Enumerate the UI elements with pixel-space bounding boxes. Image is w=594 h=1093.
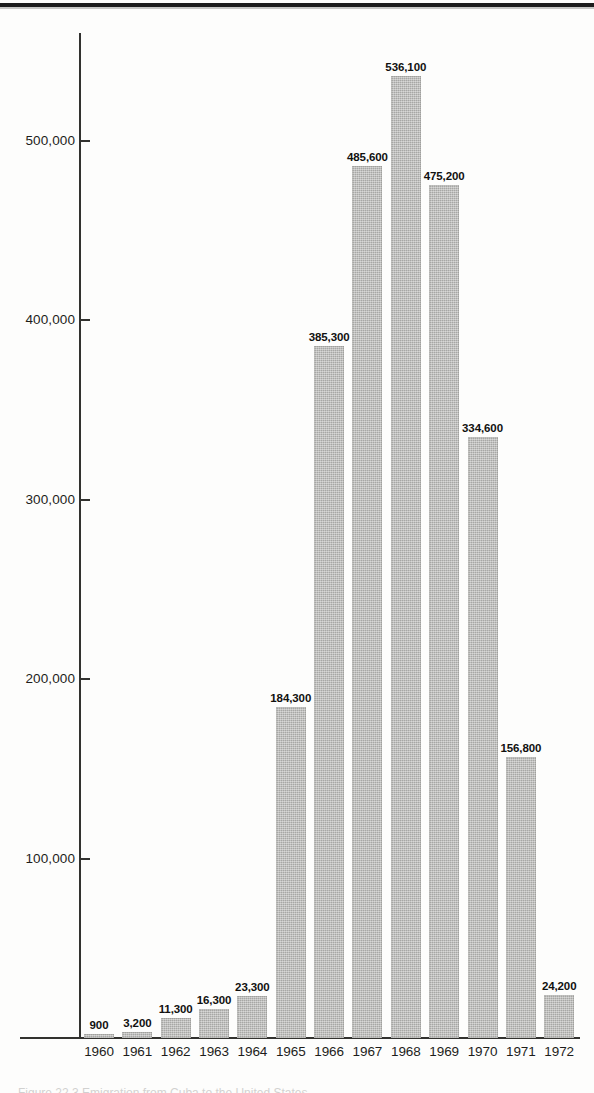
bar-chart-plot-area: 100,000200,000300,000400,000500,000 9003… bbox=[0, 0, 594, 1093]
y-axis-tick-mark bbox=[81, 858, 90, 860]
bar bbox=[122, 1032, 152, 1038]
x-axis-tick-label: 1962 bbox=[156, 1044, 196, 1059]
x-axis-tick-label: 1972 bbox=[539, 1044, 579, 1059]
y-axis-tick-label-wrap: 300,000 bbox=[0, 492, 75, 508]
x-axis-tick-label: 1970 bbox=[463, 1044, 503, 1059]
bar-value-label: 156,800 bbox=[486, 742, 556, 754]
y-axis-tick-label: 300,000 bbox=[3, 492, 75, 507]
bar-value-label: 24,200 bbox=[524, 980, 594, 992]
y-axis-tick-label: 200,000 bbox=[3, 671, 75, 686]
y-axis-tick-mark bbox=[81, 140, 90, 142]
bar bbox=[506, 757, 536, 1038]
bar-value-label: 334,600 bbox=[448, 422, 518, 434]
x-axis-tick-label: 1960 bbox=[79, 1044, 119, 1059]
y-axis-tick-label: 500,000 bbox=[3, 133, 75, 148]
bar bbox=[468, 437, 498, 1038]
bar-value-label: 475,200 bbox=[409, 170, 479, 182]
bar bbox=[84, 1034, 114, 1038]
bar bbox=[237, 996, 267, 1038]
chart-page: 100,000200,000300,000400,000500,000 9003… bbox=[0, 0, 594, 1093]
x-axis-tick-label: 1971 bbox=[501, 1044, 541, 1059]
caption-remnant: Figure 22.3 Emigration from Cuba to the … bbox=[18, 1086, 538, 1093]
bar bbox=[391, 76, 421, 1038]
x-axis-tick-label: 1966 bbox=[309, 1044, 349, 1059]
bar bbox=[314, 346, 344, 1038]
x-axis-tick-label: 1965 bbox=[271, 1044, 311, 1059]
y-axis-tick-label-wrap: 100,000 bbox=[0, 851, 75, 867]
bar bbox=[352, 166, 382, 1038]
y-axis-tick-label: 400,000 bbox=[3, 312, 75, 327]
x-axis-tick-label: 1968 bbox=[386, 1044, 426, 1059]
y-axis-tick-label-wrap: 500,000 bbox=[0, 133, 75, 149]
y-axis-tick-mark bbox=[81, 678, 90, 680]
y-axis-tick-label: 100,000 bbox=[3, 851, 75, 866]
y-axis-line bbox=[79, 33, 81, 1039]
y-axis-tick-mark bbox=[81, 499, 90, 501]
y-axis-tick-label-wrap: 400,000 bbox=[0, 312, 75, 328]
bar-value-label: 536,100 bbox=[371, 61, 441, 73]
bar bbox=[429, 185, 459, 1038]
x-axis-tick-label: 1961 bbox=[117, 1044, 157, 1059]
bar bbox=[199, 1009, 229, 1038]
x-axis-tick-label: 1967 bbox=[347, 1044, 387, 1059]
y-axis-tick-mark bbox=[81, 319, 90, 321]
bar bbox=[276, 707, 306, 1038]
bar bbox=[161, 1018, 191, 1038]
x-axis-tick-label: 1969 bbox=[424, 1044, 464, 1059]
y-axis-tick-label-wrap: 200,000 bbox=[0, 671, 75, 687]
x-axis-tick-label: 1964 bbox=[232, 1044, 272, 1059]
bar bbox=[544, 995, 574, 1038]
x-axis-tick-label: 1963 bbox=[194, 1044, 234, 1059]
